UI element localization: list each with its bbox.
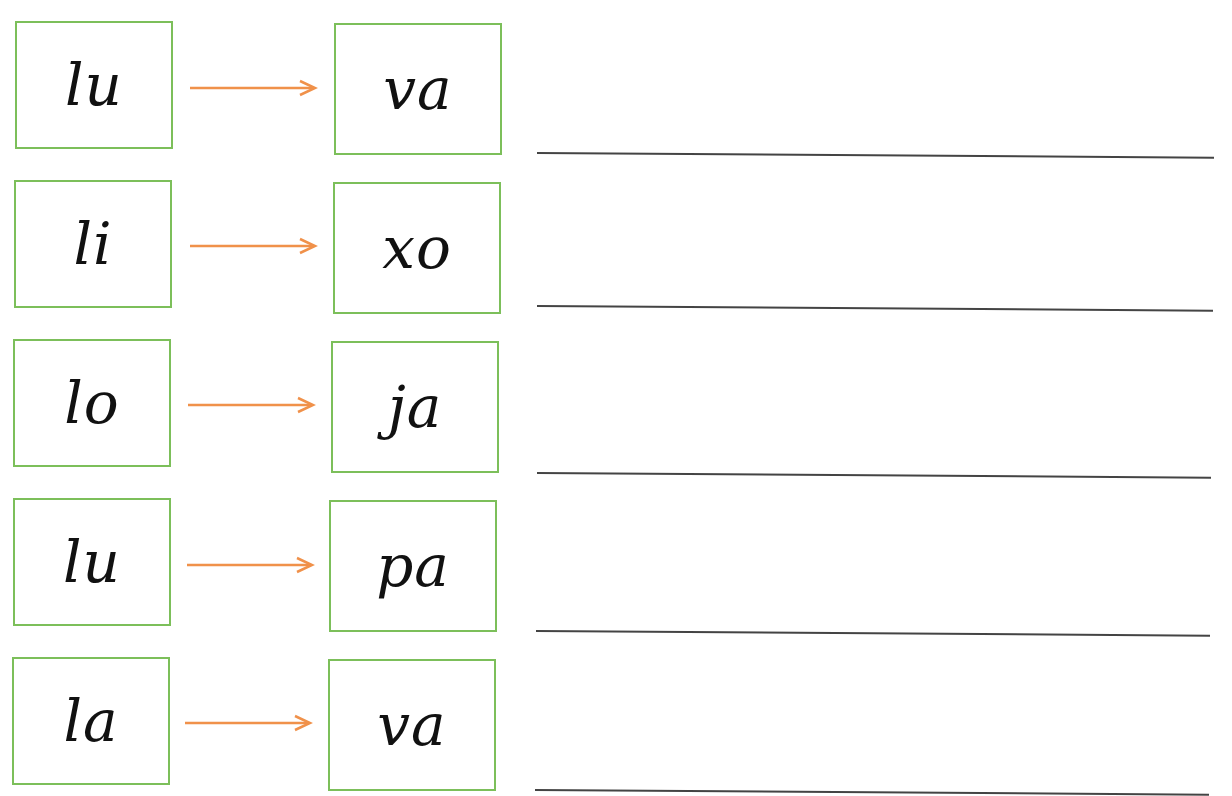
answer-line[interactable] [537,152,1214,159]
syllable-text: xo [382,219,452,277]
answer-line[interactable] [536,630,1210,637]
syllable-box-left: lu [13,498,171,626]
syllable-text: lu [63,533,121,591]
syllable-box-left: li [14,180,172,308]
exercise-row: li xo [0,160,1232,320]
syllable-box-left: la [12,657,170,785]
arrow-right-icon [188,236,318,256]
syllable-text: pa [376,537,450,595]
syllable-box-right: va [328,659,496,791]
syllable-text: lu [65,56,123,114]
syllable-box-left: lo [13,339,171,467]
exercise-row: lu pa [0,480,1232,640]
syllable-box-right: pa [329,500,497,632]
exercise-row: la va [0,640,1232,796]
syllable-text: va [383,60,452,118]
syllable-box-right: ja [331,341,499,473]
syllable-box-left: lu [15,21,173,149]
arrow-right-icon [185,555,315,575]
arrow-right-icon [183,713,313,733]
syllable-text: va [377,696,446,754]
syllable-text: ja [388,378,443,436]
exercise-row: lo ja [0,320,1232,480]
answer-line[interactable] [537,472,1211,479]
syllable-text: la [63,692,118,750]
exercise-row: lu va [0,0,1232,160]
arrow-right-icon [186,395,316,415]
answer-line[interactable] [537,305,1213,312]
syllable-box-right: va [334,23,502,155]
arrow-right-icon [188,78,318,98]
answer-line[interactable] [535,789,1209,796]
syllable-text: lo [64,374,119,432]
syllable-box-right: xo [333,182,501,314]
syllable-text: li [73,215,112,273]
